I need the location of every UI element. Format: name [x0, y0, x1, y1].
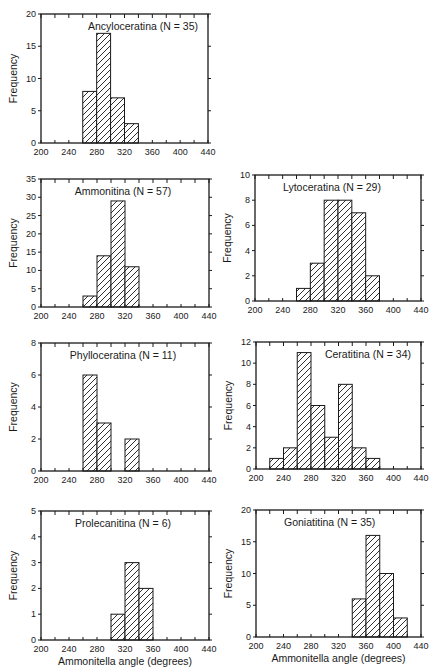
histogram-panel-ceratitina: 200240280320360400440024681012FrequencyC…	[222, 337, 429, 483]
x-tick-label: 280	[303, 473, 318, 483]
panel-title: Lytoceratina (N = 29)	[283, 181, 381, 193]
histogram-bar	[97, 256, 111, 307]
histogram-bar	[352, 213, 366, 301]
y-tick-label: 5	[246, 600, 251, 610]
histogram-bar	[125, 124, 139, 143]
x-tick-label: 440	[201, 311, 216, 321]
y-tick-label: 0	[31, 466, 36, 476]
bars	[270, 353, 380, 469]
x-tick-label: 320	[330, 305, 345, 315]
y-tick-label: 2	[246, 443, 251, 453]
histogram-bar	[125, 439, 139, 471]
y-axis-label: Frequency	[222, 548, 234, 598]
y-tick-label: 4	[246, 422, 251, 432]
histogram-bar	[366, 458, 380, 469]
histogram-bar	[380, 574, 394, 638]
y-tick-label: 10	[240, 170, 250, 180]
histogram-bar	[83, 91, 97, 143]
y-tick-label: 8	[31, 338, 36, 348]
histogram-bar	[97, 423, 111, 471]
x-tick-label: 280	[89, 311, 104, 321]
histogram-panel-ammonitina: 20024028032036040044005101520253035Frequ…	[7, 174, 217, 321]
x-tick-label: 320	[331, 473, 346, 483]
histogram-bar	[125, 267, 139, 307]
bars	[297, 200, 380, 301]
histogram-bar	[394, 618, 408, 637]
x-tick-label: 360	[145, 475, 160, 485]
x-axis-label: Ammonitella angle (degrees)	[271, 652, 405, 664]
y-tick-label: 0	[246, 632, 251, 642]
y-tick-label: 2	[245, 271, 250, 281]
y-tick-label: 15	[26, 41, 36, 51]
x-tick-label: 320	[117, 475, 132, 485]
y-tick-label: 2	[31, 434, 36, 444]
y-tick-label: 0	[245, 296, 250, 306]
x-tick-label: 360	[145, 644, 160, 654]
x-tick-label: 200	[248, 473, 263, 483]
histogram-bar	[139, 588, 153, 640]
y-tick-label: 12	[241, 337, 251, 347]
histogram-bar	[284, 448, 298, 469]
histogram-panel-lytoceratina: 2002402803203604004400246810FrequencyLyt…	[221, 170, 429, 315]
x-tick-label: 280	[303, 305, 318, 315]
x-tick-label: 280	[89, 475, 104, 485]
y-tick-label: 20	[26, 229, 36, 239]
x-tick-label: 440	[413, 641, 428, 651]
y-tick-label: 10	[241, 358, 251, 368]
x-tick-label: 440	[200, 147, 215, 157]
histogram-bar	[111, 98, 125, 143]
y-tick-label: 10	[26, 265, 36, 275]
y-tick-label: 4	[31, 402, 36, 412]
histogram-bar	[310, 263, 324, 301]
y-tick-label: 5	[31, 284, 36, 294]
y-axis-label: Frequency	[7, 217, 19, 267]
x-tick-label: 240	[61, 147, 76, 157]
x-tick-label: 400	[173, 311, 188, 321]
panel-title: Phylloceratina (N = 11)	[70, 349, 176, 361]
y-axis-label: Frequency	[7, 550, 19, 600]
histogram-bar	[324, 200, 338, 301]
bars	[111, 563, 153, 640]
x-tick-label: 400	[386, 641, 401, 651]
x-tick-label: 280	[303, 641, 318, 651]
x-tick-label: 200	[248, 641, 263, 651]
y-tick-label: 6	[246, 401, 251, 411]
histogram-bar	[311, 406, 325, 470]
x-tick-label: 320	[117, 644, 132, 654]
x-tick-label: 400	[386, 305, 401, 315]
panel-title: Ammonitina (N = 57)	[75, 185, 172, 197]
x-tick-label: 280	[89, 147, 104, 157]
x-tick-label: 360	[358, 473, 373, 483]
x-tick-label: 240	[276, 641, 291, 651]
x-tick-label: 240	[61, 311, 76, 321]
x-tick-label: 200	[33, 311, 48, 321]
x-tick-label: 360	[358, 305, 373, 315]
y-axis-label: Frequency	[222, 380, 234, 430]
histogram-bar	[270, 458, 284, 469]
histogram-bar	[83, 296, 97, 307]
x-tick-label: 440	[413, 473, 428, 483]
histogram-bar	[297, 288, 311, 301]
x-tick-label: 200	[33, 147, 48, 157]
x-tick-label: 400	[173, 644, 188, 654]
y-tick-label: 35	[26, 174, 36, 184]
x-tick-label: 320	[117, 147, 132, 157]
y-tick-label: 20	[241, 505, 251, 515]
y-axis-label: Frequency	[7, 381, 19, 431]
histogram-panel-ancyloceratina: 20024028032036040044005101520FrequencyAn…	[7, 9, 216, 157]
histogram-bar	[111, 201, 125, 307]
x-tick-label: 200	[33, 644, 48, 654]
bars	[83, 33, 139, 143]
histogram-bar	[83, 375, 97, 471]
x-tick-label: 360	[145, 147, 160, 157]
x-tick-label: 320	[117, 311, 132, 321]
histogram-figure: 20024028032036040044005101520FrequencyAn…	[0, 0, 435, 668]
y-tick-label: 2	[31, 583, 36, 593]
x-axis-label: Ammonitella angle (degrees)	[58, 655, 192, 667]
y-tick-label: 8	[245, 195, 250, 205]
x-tick-label: 440	[201, 475, 216, 485]
histogram-bar	[297, 353, 311, 469]
x-tick-label: 240	[61, 475, 76, 485]
panel-title: Ancyloceratina (N = 35)	[88, 20, 198, 32]
y-axis-label: Frequency	[221, 212, 233, 262]
